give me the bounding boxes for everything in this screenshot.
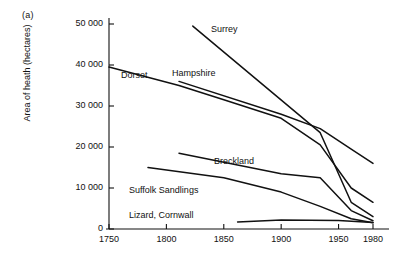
data-lines: [109, 26, 373, 223]
axes: [106, 18, 389, 229]
series-line-surrey: [193, 26, 373, 217]
chart-canvas: [0, 0, 408, 261]
series-line-lizard-cornwall: [238, 220, 373, 222]
series-line-hampshire: [179, 81, 373, 163]
figure-panel: (a) Area of heath (hectares) 010 00020 0…: [0, 0, 408, 261]
